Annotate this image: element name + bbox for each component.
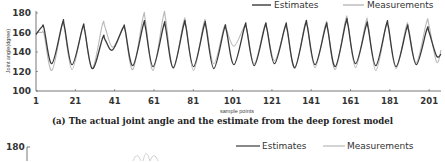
y-axis-ticks: 100120140160180 bbox=[12, 8, 38, 96]
legend: Estimates Measurements bbox=[252, 0, 434, 10]
second-legend-label-measurements: Measurements bbox=[347, 141, 414, 151]
second-chart-peaks bbox=[133, 154, 158, 162]
x-tick-label: 181 bbox=[381, 96, 399, 106]
y-tick-label: 120 bbox=[12, 67, 31, 77]
x-axis-title: sample points bbox=[220, 108, 254, 114]
x-tick-label: 61 bbox=[148, 96, 160, 106]
x-tick-label: 121 bbox=[263, 96, 281, 106]
x-tick-label: 161 bbox=[342, 96, 360, 106]
plot-area bbox=[36, 11, 441, 70]
x-tick-label: 21 bbox=[69, 96, 81, 106]
second-chart-ytick-180: 180 bbox=[6, 142, 25, 152]
x-axis-ticks: 121416181101121141161181201 bbox=[33, 89, 438, 106]
y-tick-label: 180 bbox=[12, 8, 31, 18]
second-legend-label-estimates: Estimates bbox=[262, 141, 307, 151]
caption-part-2: angle and the estimate from the deep for… bbox=[145, 116, 393, 126]
series-estimates-line bbox=[36, 18, 441, 68]
x-tick-label: 141 bbox=[302, 96, 320, 106]
x-tick-label: 1 bbox=[33, 96, 39, 106]
x-tick-label: 101 bbox=[224, 96, 242, 106]
y-tick-label: 140 bbox=[12, 47, 31, 57]
figure-caption: (a) The actual joint angle and the estim… bbox=[0, 116, 445, 126]
x-tick-label: 81 bbox=[187, 96, 199, 106]
second-chart-partial: 180 Estimates Measurements bbox=[6, 141, 414, 161]
x-tick-label: 201 bbox=[420, 96, 438, 106]
y-tick-label: 100 bbox=[12, 86, 31, 96]
series-measurements-line bbox=[36, 11, 441, 70]
second-chart-axis-corner bbox=[27, 147, 30, 161]
caption-part-1: (a) The actual joint bbox=[52, 116, 145, 126]
legend-label-measurements: Measurements bbox=[367, 0, 434, 10]
y-axis-title: Joint angle(dgree) bbox=[5, 29, 11, 74]
y-tick-label: 160 bbox=[12, 28, 31, 38]
joint-angle-chart: 100120140160180 121416181101121141161181… bbox=[0, 0, 445, 161]
legend-label-estimates: Estimates bbox=[274, 0, 319, 10]
x-tick-label: 41 bbox=[109, 96, 121, 106]
